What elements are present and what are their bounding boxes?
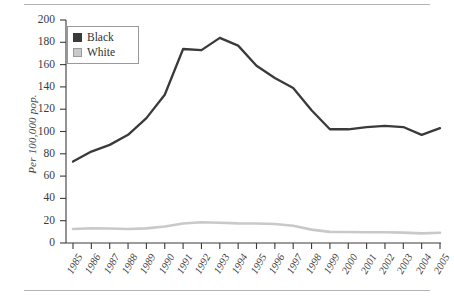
- y-tick-label: 180: [21, 36, 55, 48]
- data-series-layer: [73, 38, 440, 234]
- legend-label-white: White: [87, 47, 115, 59]
- legend-item-white[interactable]: White: [73, 45, 134, 60]
- y-tick-label: 60: [21, 170, 55, 182]
- y-tick-label: 0: [21, 237, 55, 249]
- y-tick-label: 160: [21, 59, 55, 71]
- chart-figure: Per 100,000 pop. 02040608010012014016018…: [0, 0, 454, 296]
- y-axis-ticks: [60, 20, 66, 243]
- legend-swatch-black: [73, 33, 82, 42]
- y-tick-label: 120: [21, 103, 55, 115]
- series-line-white: [73, 222, 440, 233]
- y-tick-label: 140: [21, 81, 55, 93]
- chart-legend: Black White: [67, 26, 139, 64]
- y-tick-label: 100: [21, 126, 55, 138]
- x-axis-ticks: [73, 243, 440, 249]
- y-tick-label: 40: [21, 192, 55, 204]
- y-tick-label: 80: [21, 148, 55, 160]
- legend-label-black: Black: [87, 32, 114, 44]
- legend-item-black[interactable]: Black: [73, 30, 134, 45]
- legend-swatch-white: [73, 48, 82, 57]
- y-tick-label: 20: [21, 215, 55, 227]
- y-tick-label: 200: [21, 14, 55, 26]
